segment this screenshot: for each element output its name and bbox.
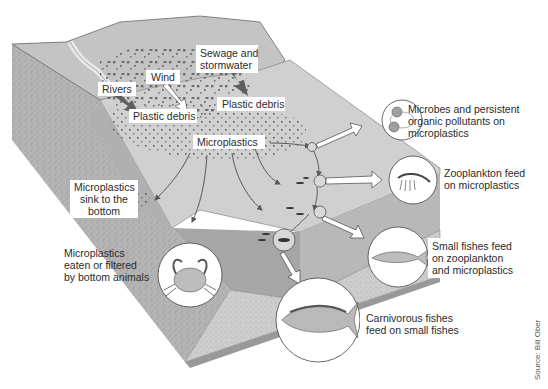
svg-text:Microplastics: Microplastics [74, 181, 135, 193]
source-credit: Source: Bill Ober [533, 319, 542, 380]
small-fish-circle [368, 227, 428, 287]
label-wind: Wind [146, 70, 180, 84]
svg-text:sink to the: sink to the [80, 193, 128, 205]
svg-text:Plastic debris: Plastic debris [133, 110, 195, 122]
svg-text:eaten or filtered: eaten or filtered [64, 259, 137, 271]
svg-text:on microplastics: on microplastics [444, 179, 519, 191]
svg-text:and microplastics: and microplastics [432, 264, 513, 276]
svg-text:stormwater: stormwater [200, 59, 252, 71]
svg-text:on zooplankton: on zooplankton [432, 252, 503, 264]
label-zooplankton: Zooplankton feed on microplastics [444, 167, 525, 191]
svg-text:Rivers: Rivers [102, 83, 132, 95]
label-carnivorous: Carnivorous fishes feed on small fishes [360, 310, 466, 338]
svg-text:Wind: Wind [151, 71, 175, 83]
svg-text:by bottom animals: by bottom animals [64, 271, 149, 283]
zooplankton-node [314, 175, 326, 187]
svg-text:Sewage and: Sewage and [200, 47, 259, 59]
label-rivers: Rivers [98, 82, 136, 96]
label-plastic-debris-left: Plastic debris [129, 109, 197, 123]
label-microplastics: Microplastics [193, 135, 265, 149]
svg-text:Zooplankton feed: Zooplankton feed [444, 167, 525, 179]
crab-circle [158, 243, 222, 307]
svg-text:Small fishes feed: Small fishes feed [432, 240, 512, 252]
microplastics-food-chain-diagram: Sewage and stormwater Wind Rivers Plasti… [0, 0, 548, 389]
svg-text:Plastic debris: Plastic debris [222, 98, 284, 110]
svg-text:Microplastics: Microplastics [64, 247, 125, 259]
carnivorous-fish-circle [276, 278, 360, 362]
svg-text:feed on small fishes: feed on small fishes [366, 324, 459, 336]
label-sink-to-bottom: Microplastics sink to the bottom [70, 180, 138, 218]
svg-text:Microbes and persistent: Microbes and persistent [408, 103, 520, 115]
label-plastic-debris-right: Plastic debris [217, 97, 285, 111]
svg-text:Microplastics: Microplastics [197, 136, 258, 148]
label-microbes: Microbes and persistent organic pollutan… [408, 103, 520, 139]
svg-text:bottom: bottom [88, 205, 120, 217]
label-sewage: Sewage and stormwater [196, 45, 259, 73]
svg-text:organic pollutants on: organic pollutants on [408, 115, 505, 127]
zooplankton-circle [389, 156, 437, 204]
svg-text:Carnivorous fishes: Carnivorous fishes [366, 312, 453, 324]
svg-text:microplastics: microplastics [408, 127, 469, 139]
label-small-fishes: Small fishes feed on zooplankton and mic… [428, 238, 534, 278]
microplastic-node [308, 143, 317, 152]
